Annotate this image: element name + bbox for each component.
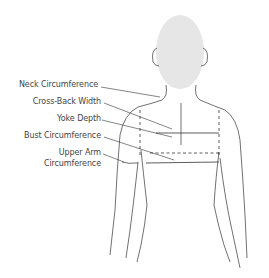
label-bust-circumference: Bust Circumference	[24, 131, 101, 141]
right-neck-shoulder	[196, 85, 248, 258]
label-neck-circumference: Neck Circumference	[19, 80, 98, 90]
leader-neck	[101, 87, 160, 97]
label-cross-back-width: Cross-Back Width	[33, 97, 101, 107]
right-arm-inner	[220, 158, 240, 268]
leader-upper-arm	[103, 154, 124, 162]
leader-bust	[104, 137, 174, 160]
upper-arm-curve	[122, 162, 138, 163]
left-neck-shoulder	[110, 85, 167, 255]
label-upper-arm-circumference: Circumference	[44, 159, 101, 169]
left-torso-side	[137, 150, 147, 262]
label-yoke-depth: Yoke Depth	[57, 114, 101, 124]
upper-arm-line	[146, 162, 219, 163]
left-arm-inner	[126, 162, 138, 258]
head	[156, 15, 204, 89]
leader-yoke	[102, 120, 172, 137]
label-upper-arm: Upper Arm	[59, 148, 101, 158]
